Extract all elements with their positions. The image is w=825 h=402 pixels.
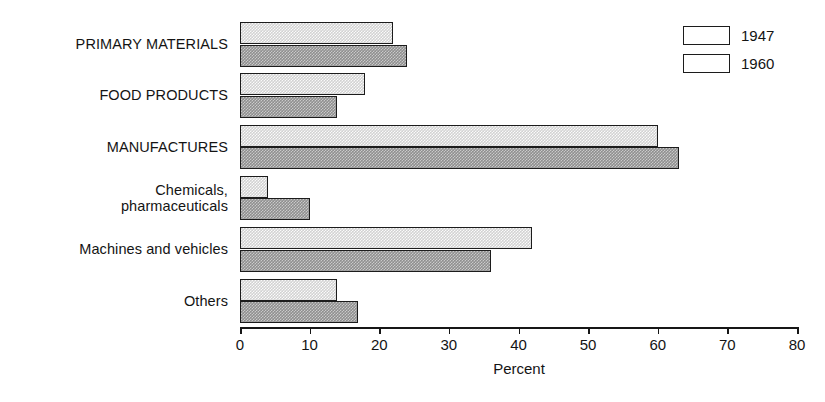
x-tick-label-20: 20 [349, 336, 409, 353]
category-label-2: MANUFACTURES [0, 139, 228, 155]
x-axis-title: Percent [240, 360, 798, 377]
x-tick-label-60: 60 [628, 336, 688, 353]
bar-group-row [240, 250, 797, 272]
bar-1947-2[interactable] [240, 125, 658, 147]
bar-group-row [240, 147, 797, 169]
x-tick-10 [310, 327, 312, 334]
x-tick-label-30: 30 [419, 336, 479, 353]
legend-item-1960[interactable]: 1960 [683, 52, 774, 74]
x-tick-50 [588, 327, 590, 334]
bar-group-row [240, 279, 797, 301]
bar-1960-0[interactable] [240, 45, 407, 67]
x-tick-30 [449, 327, 451, 334]
x-tick-label-40: 40 [489, 336, 549, 353]
x-tick-label-70: 70 [697, 336, 757, 353]
category-label-column: PRIMARY MATERIALSFOOD PRODUCTSMANUFACTUR… [0, 0, 228, 340]
bar-1960-1[interactable] [240, 96, 337, 118]
x-tick-20 [379, 327, 381, 334]
category-label-0: PRIMARY MATERIALS [0, 36, 228, 52]
legend-label-1960: 1960 [741, 55, 774, 72]
category-label-5: Others [0, 293, 228, 309]
bar-group-row [240, 96, 797, 118]
bar-1960-4[interactable] [240, 250, 491, 272]
bar-1960-3[interactable] [240, 198, 310, 220]
bar-chart: PRIMARY MATERIALSFOOD PRODUCTSMANUFACTUR… [0, 0, 825, 402]
x-tick-label-50: 50 [558, 336, 618, 353]
x-tick-70 [727, 327, 729, 334]
category-label-3: Chemicals, pharmaceuticals [0, 182, 228, 214]
bar-group-row [240, 176, 797, 198]
x-tick-0 [240, 327, 242, 334]
bar-group-row [240, 301, 797, 323]
x-tick-label-10: 10 [280, 336, 340, 353]
bar-group-row [240, 227, 797, 249]
category-label-1: FOOD PRODUCTS [0, 87, 228, 103]
category-label-4: Machines and vehicles [0, 241, 228, 257]
bar-1947-5[interactable] [240, 279, 337, 301]
x-tick-label-80: 80 [767, 336, 825, 353]
x-tick-40 [519, 327, 521, 334]
bar-1960-2[interactable] [240, 147, 679, 169]
x-tick-80 [797, 327, 799, 334]
x-tick-label-0: 0 [210, 336, 270, 353]
bar-1947-4[interactable] [240, 227, 532, 249]
bar-group-row [240, 125, 797, 147]
bar-1947-1[interactable] [240, 73, 365, 95]
legend-label-1947: 1947 [741, 27, 774, 44]
bar-1947-3[interactable] [240, 176, 268, 198]
x-tick-60 [658, 327, 660, 334]
legend-swatch-1960 [683, 54, 730, 73]
legend-item-1947[interactable]: 1947 [683, 24, 774, 46]
bar-1947-0[interactable] [240, 22, 393, 44]
bar-1960-5[interactable] [240, 301, 358, 323]
legend: 19471960 [683, 24, 774, 80]
legend-swatch-1947 [683, 26, 730, 45]
bar-group-row [240, 198, 797, 220]
